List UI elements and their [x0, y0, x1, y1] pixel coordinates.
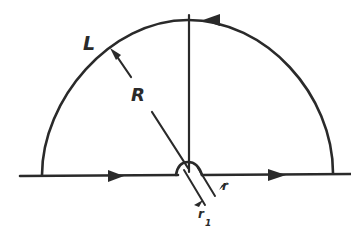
radius-line-upper	[118, 58, 131, 77]
contour-label: L	[83, 32, 95, 54]
arrow-right-icon-2	[268, 169, 286, 181]
large-radius-label: R	[131, 84, 145, 105]
arrow-right-icon	[108, 170, 124, 182]
small-arrow-icon-2	[194, 200, 203, 207]
small-radius-line-2	[198, 168, 215, 196]
radius-line-lower	[152, 112, 188, 168]
small-radius-sub-index: 1	[205, 218, 211, 228]
contour-diagram: L R r r 1	[0, 0, 351, 234]
small-radius-sub-label: r	[198, 207, 205, 221]
arrow-left-icon	[203, 14, 220, 26]
small-radius-label: r	[222, 179, 229, 193]
real-axis-left	[20, 175, 178, 176]
